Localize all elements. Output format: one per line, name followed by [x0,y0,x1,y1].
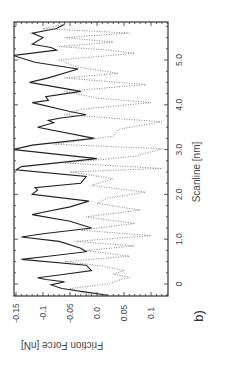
y-tick-label: 0.0 [92,307,102,319]
y-tick-label: 0.1 [146,307,156,319]
x-tick-label: 0 [174,281,184,286]
trace-line [13,24,108,295]
x-tick-label: 4.0 [174,99,184,111]
y-tick-label: -0.15 [11,303,21,323]
y-axis-title: Friction Force [nN] [21,340,103,351]
panel-label: b) [191,310,206,322]
x-tick-label: 2.0 [174,188,184,200]
x-axis-title: Scanline [nm] [191,141,202,202]
x-tick-label: 5.0 [174,54,184,66]
plot-area [13,22,168,296]
x-tick-label: 1.0 [174,233,184,245]
tick-labels: 01.02.03.04.05.0-0.15-0.1-0.050.00.050.1 [11,54,184,323]
y-tick-label: -0.05 [65,303,75,323]
y-tick-label: -0.1 [38,305,48,320]
x-tick-label: 3.0 [174,143,184,155]
friction-force-chart: 01.02.03.04.05.0-0.15-0.1-0.050.00.050.1… [0,0,225,367]
y-tick-label: 0.05 [119,304,129,321]
